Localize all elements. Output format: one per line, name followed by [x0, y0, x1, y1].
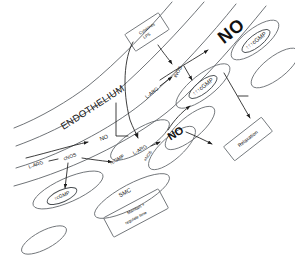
arrow-inos-to-cgmp3	[184, 66, 192, 80]
tone-box: Maintain + regulate tone	[103, 189, 168, 238]
arrow-cgmp-to-relaxation	[224, 73, 250, 118]
relaxation-label: Relaxation	[236, 129, 258, 148]
arrow-larg-left-to-cnos	[49, 159, 58, 161]
arrow-cnos-to-no-small	[26, 142, 88, 158]
l-arg-left-label: L-ARG	[28, 159, 45, 170]
cnos-label: cNOS	[62, 151, 77, 161]
arrow-cnos-to-cgmp-left	[65, 163, 68, 188]
diagram-canvas: ENDOTHELIUM Cytokines LPS L-ARG iNOS NO …	[0, 0, 295, 274]
cell-ellipse-lower-left-2	[18, 220, 71, 259]
endothelium-bracket	[116, 103, 128, 136]
relaxation-box: Relaxation	[224, 117, 273, 161]
no-large-label: NO	[214, 14, 249, 47]
arrow-cytokines-to-inos	[158, 45, 172, 64]
no-mid-label: NO	[165, 123, 186, 142]
no-small-label: NO	[99, 133, 110, 142]
arrow-inos-to-no-large	[160, 50, 208, 80]
l-arg-inducible-label: L-ARG	[144, 85, 160, 99]
cell-ellipse-top-right-2	[245, 41, 295, 94]
arrow-cytokines-to-center	[125, 42, 138, 138]
no-signaling-diagram: ENDOTHELIUM Cytokines LPS L-ARG iNOS NO …	[0, 0, 295, 274]
tone-box-outline	[103, 189, 168, 238]
